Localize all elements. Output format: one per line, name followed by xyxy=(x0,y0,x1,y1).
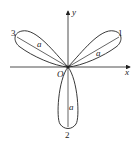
petal-2-label: 2 xyxy=(65,130,70,140)
origin-point xyxy=(66,65,69,68)
petal-3-label: 3 xyxy=(11,28,16,38)
rose-diagram: x y O 1 2 3 a a a xyxy=(0,0,140,147)
y-axis-label: y xyxy=(71,7,76,17)
petal-3-axis xyxy=(17,37,68,67)
petal-1 xyxy=(68,31,121,67)
origin-label: O xyxy=(57,69,64,79)
petal-1-label: 1 xyxy=(118,28,123,38)
petal-1-length-label: a xyxy=(96,48,101,58)
x-axis-label: x xyxy=(124,67,129,77)
petal-1-axis xyxy=(68,37,119,67)
petal-3-length-label: a xyxy=(37,39,42,49)
petal-2-length-label: a xyxy=(69,102,74,112)
petal-3 xyxy=(15,31,68,67)
